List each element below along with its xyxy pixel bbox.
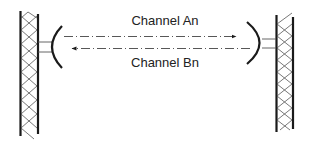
channel-a-label: Channel An — [131, 14, 198, 27]
left-antenna — [38, 26, 62, 68]
left-dish-icon — [52, 26, 62, 68]
right-dish-icon — [247, 22, 260, 64]
left-tower-lattice — [21, 12, 37, 139]
left-tower — [21, 11, 39, 139]
right-tower-lattice — [277, 13, 292, 130]
right-antenna — [247, 22, 276, 64]
right-tower — [277, 13, 294, 132]
channel-b-label: Channel Bn — [131, 56, 199, 69]
